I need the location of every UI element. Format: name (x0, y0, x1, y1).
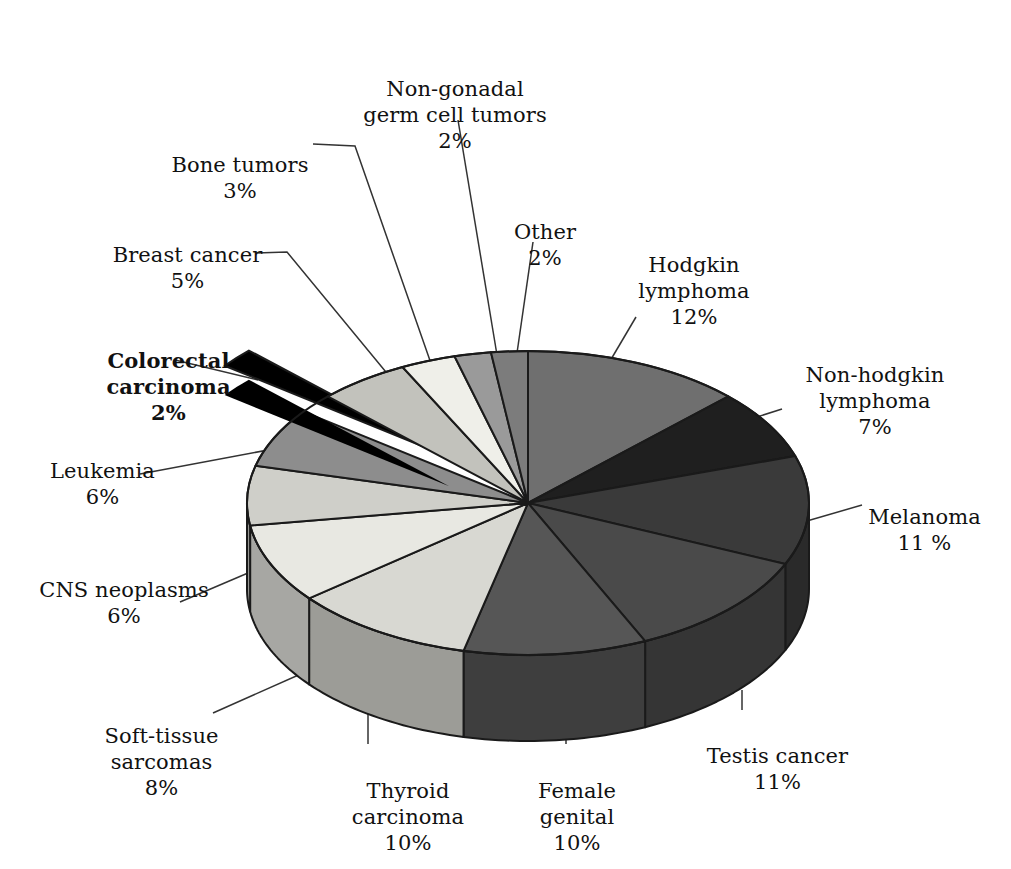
label-text: Soft-tissue sarcomas (104, 724, 218, 774)
label-pct: 7% (775, 414, 975, 440)
label-breast-cancer: Breast cancer 5% (95, 216, 280, 320)
label-pct: 6% (35, 484, 170, 510)
label-soft-tissue-sarcomas: Soft-tissue sarcomas 8% (84, 697, 239, 827)
label-female-genital: Female genital 10% (513, 752, 641, 869)
pie-chart-figure: Non-gonadal germ cell tumors 2% Bone tum… (0, 0, 1011, 869)
label-text: Bone tumors (171, 153, 308, 177)
pie-slice-side (464, 641, 646, 741)
label-pct: 2% (340, 128, 570, 154)
label-text: Thyroid carcinoma (352, 779, 464, 829)
label-pct: 2% (490, 245, 600, 271)
label-text: Hodgkin lymphoma (638, 253, 749, 303)
label-pct: 11 % (852, 530, 997, 556)
label-melanoma: Melanoma 11 % (852, 478, 997, 582)
label-bone-tumors: Bone tumors 3% (150, 126, 330, 230)
label-pct: 12% (615, 304, 773, 330)
label-non-hodgkin-lymphoma: Non-hodgkin lymphoma 7% (775, 336, 975, 466)
label-thyroid-carcinoma: Thyroid carcinoma 10% (332, 752, 484, 869)
label-pct: 11% (685, 769, 870, 795)
label-pct: 8% (84, 775, 239, 801)
label-text: Colorectal carcinoma (106, 348, 230, 399)
label-pct: 10% (513, 830, 641, 856)
label-other: Other 2% (490, 193, 600, 297)
label-text: Non-hodgkin lymphoma (806, 363, 945, 413)
label-pct: 6% (24, 603, 224, 629)
label-non-gonadal-germ-cell-tumors: Non-gonadal germ cell tumors 2% (340, 50, 570, 180)
label-text: Melanoma (868, 505, 981, 529)
label-hodgkin-lymphoma: Hodgkin lymphoma 12% (615, 226, 773, 356)
label-text: CNS neoplasms (39, 578, 209, 602)
label-text: Testis cancer (707, 744, 849, 768)
label-text: Other (514, 220, 576, 244)
label-pct: 2% (46, 400, 291, 426)
label-pct: 3% (150, 178, 330, 204)
label-pct: 5% (95, 268, 280, 294)
label-text: Leukemia (50, 459, 155, 483)
label-pct: 10% (332, 830, 484, 856)
label-testis-cancer: Testis cancer 11% (685, 717, 870, 821)
label-text: Female genital (538, 779, 616, 829)
label-text: Breast cancer (113, 243, 263, 267)
label-cns-neoplasms: CNS neoplasms 6% (24, 551, 224, 655)
label-text: Non-gonadal germ cell tumors (363, 77, 547, 127)
label-leukemia: Leukemia 6% (35, 432, 170, 536)
